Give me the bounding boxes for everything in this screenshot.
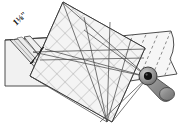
cutter-pivot-highlight [146,74,148,76]
width-measure-label: 1⅛" [11,10,29,28]
diagram-canvas: 1⅛" [0,0,179,127]
cutter-handle-end [160,88,175,101]
cutter-pivot-point [144,72,152,80]
